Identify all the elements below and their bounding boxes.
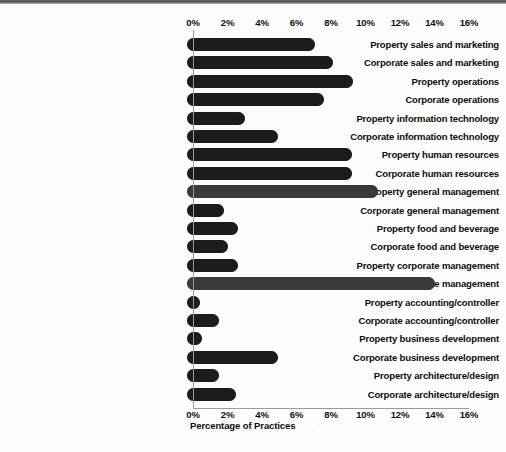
bar [187,388,236,401]
category-label: Property business development [320,333,506,344]
x-tick-top-10: 10% [356,17,375,28]
x-tick-top-6: 6% [290,17,304,28]
x-tick-bottom-14: 14% [425,409,444,420]
bar [187,130,278,143]
x-tick-top-8: 8% [324,17,338,28]
category-label: Corporate general management [320,205,506,216]
bar [187,148,352,161]
x-tick-top-12: 12% [391,17,410,28]
x-tick-bottom-16: 16% [460,409,479,420]
bar [187,38,315,51]
x-tick-top-0: 0% [186,17,200,28]
zero-axis-line [193,30,194,408]
x-tick-bottom-6: 6% [290,409,304,420]
x-axis-title: Percentage of Practices [190,420,295,431]
category-label: Corporate architecture/design [320,389,506,400]
x-tick-top-2: 2% [221,17,235,28]
bar-chart: 0%2%4%6%8%10%12%14%16% Property sales an… [0,0,506,452]
x-tick-top-16: 16% [460,17,479,28]
category-label: Corporate operations [320,94,506,105]
x-tick-bottom-10: 10% [356,409,375,420]
bar [187,56,333,69]
category-label: Corporate food and beverage [320,241,506,252]
category-label: Corporate information technology [320,131,506,142]
bar [187,314,219,327]
category-label: Corporate sales and marketing [320,57,506,68]
category-label: Property food and beverage [320,223,506,234]
category-label: Property architecture/design [320,370,506,381]
category-label: Property sales and marketing [320,39,506,50]
bar [187,167,352,180]
bar [187,259,238,272]
x-tick-bottom-8: 8% [324,409,338,420]
category-label: Property information technology [320,113,506,124]
bar [187,93,324,106]
x-tick-bottom-0: 0% [186,409,200,420]
category-label: Corporate business development [320,352,506,363]
bar [187,222,238,235]
bar [187,112,245,125]
category-label: Corporate accounting/controller [320,315,506,326]
bar [187,332,202,345]
bar [187,185,378,198]
bar [187,75,353,88]
x-tick-bottom-2: 2% [221,409,235,420]
bar [187,351,278,364]
category-label: Property corporate management [320,260,506,271]
x-tick-bottom-12: 12% [391,409,410,420]
x-tick-top-14: 14% [425,17,444,28]
category-label: Property accounting/controller [320,297,506,308]
bar [187,277,435,290]
x-tick-bottom-4: 4% [255,409,269,420]
chart-page: 0%2%4%6%8%10%12%14%16% Property sales an… [0,0,506,452]
bar [187,369,219,382]
x-tick-top-4: 4% [255,17,269,28]
